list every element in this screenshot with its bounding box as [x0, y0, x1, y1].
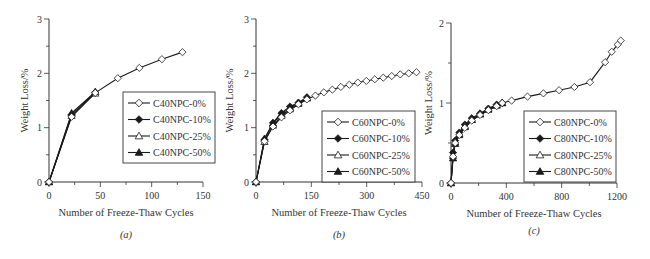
y-tick-label: 1 [37, 122, 42, 133]
open-diamond-marker [346, 81, 353, 88]
x-tick-label: 300 [359, 190, 374, 201]
legend-label: C40NPC-25% [153, 131, 211, 142]
open-diamond-marker [405, 70, 412, 77]
y-tick-label: 1 [439, 98, 444, 109]
legend-label: C80NPC-50% [554, 166, 612, 177]
legend-label: C60NPC-50% [352, 166, 410, 177]
x-tick-label: 400 [499, 191, 514, 202]
open-diamond-marker [158, 56, 165, 63]
x-tick-label: 1200 [607, 191, 627, 202]
y-tick-label: 3 [37, 14, 42, 25]
x-tick-label: 800 [554, 191, 569, 202]
open-diamond-marker [136, 64, 143, 71]
x-tick-label: 150 [304, 190, 319, 201]
open-diamond-marker [380, 74, 387, 81]
chart-panel-c: 04008001200012Number of Freeze-Thaw Cycl… [423, 18, 627, 238]
y-tick-label: 0 [439, 178, 444, 189]
open-diamond-marker [354, 79, 361, 86]
x-tick-label: 150 [196, 190, 211, 201]
y-tick-label: 3 [244, 14, 249, 25]
series-c60npc-10pct [252, 94, 310, 186]
y-tick-label: 1 [244, 122, 249, 133]
panel-label: (c) [528, 225, 540, 237]
open-diamond-marker [555, 87, 562, 94]
x-tick-label: 450 [415, 190, 430, 201]
y-axis-title: Weight Loss/% [224, 68, 235, 132]
open-diamond-marker [114, 75, 121, 82]
open-diamond-marker [371, 76, 378, 83]
chart-panel-a: 0501001500123Number of Freeze-Thaw Cycle… [19, 14, 215, 242]
open-diamond-marker [329, 86, 336, 93]
open-diamond-marker [571, 83, 578, 90]
legend-label: C80NPC-10% [554, 133, 612, 144]
legend-label: C60NPC-10% [352, 133, 410, 144]
panel-label: (a) [120, 229, 133, 241]
x-tick-label: 0 [254, 190, 259, 201]
series-line [49, 92, 95, 182]
y-tick-label: 0 [37, 177, 42, 188]
x-axis-title: Number of Freeze-Thaw Cycles [467, 208, 602, 219]
open-diamond-marker [312, 92, 319, 99]
panel-label: (b) [333, 229, 346, 241]
y-tick-label: 0 [244, 177, 249, 188]
y-tick-label: 2 [244, 68, 249, 79]
legend-label: C60NPC-0% [352, 117, 405, 128]
open-diamond-marker [388, 72, 395, 79]
legend-label: C80NPC-0% [554, 117, 607, 128]
legend-label: C80NPC-25% [554, 150, 612, 161]
open-diamond-marker [320, 89, 327, 96]
y-axis-title: Weight Loss/% [423, 71, 434, 135]
legend-label: C40NPC-0% [153, 98, 206, 109]
open-diamond-marker [179, 49, 186, 56]
chart-panel-b: 01503004500123Number of Freeze-Thaw Cycl… [224, 14, 430, 242]
x-tick-label: 50 [95, 190, 105, 201]
x-tick-label: 0 [449, 191, 454, 202]
open-diamond-marker [524, 93, 531, 100]
freeze-thaw-figure: 0501001500123Number of Freeze-Thaw Cycle… [0, 0, 650, 259]
y-axis-title: Weight Loss/% [19, 68, 30, 132]
open-diamond-marker [540, 90, 547, 97]
open-diamond-marker [413, 69, 420, 76]
x-tick-label: 0 [47, 190, 52, 201]
legend-label: C60NPC-25% [352, 150, 410, 161]
legend-label: C40NPC-50% [153, 147, 211, 158]
legend: C80NPC-0%C80NPC-10%C80NPC-25%C80NPC-50% [524, 111, 616, 182]
legend: C40NPC-0%C40NPC-10%C40NPC-25%C40NPC-50% [123, 92, 215, 163]
legend-label: C40NPC-10% [153, 114, 211, 125]
legend: C60NPC-0%C60NPC-10%C60NPC-25%C60NPC-50% [322, 111, 415, 182]
y-tick-label: 2 [37, 68, 42, 79]
open-diamond-marker [337, 83, 344, 90]
x-tick-label: 100 [144, 190, 159, 201]
x-axis-title: Number of Freeze-Thaw Cycles [59, 207, 194, 218]
series-line [49, 92, 95, 182]
series-c40npc-10pct [45, 89, 98, 186]
x-axis-title: Number of Freeze-Thaw Cycles [272, 207, 407, 218]
y-tick-label: 2 [439, 18, 444, 29]
open-diamond-marker [397, 71, 404, 78]
open-diamond-marker [363, 77, 370, 84]
series-line [49, 93, 95, 182]
open-diamond-marker [508, 97, 515, 104]
